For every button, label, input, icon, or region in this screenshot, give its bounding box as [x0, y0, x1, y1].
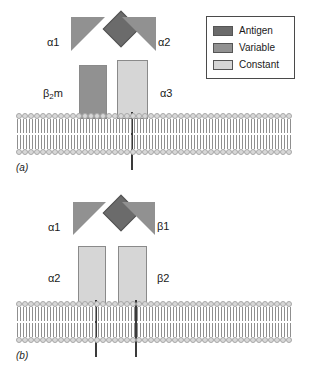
lipid-tail — [35, 307, 36, 321]
lipid-tail — [44, 119, 45, 133]
lipid-tail — [80, 323, 81, 337]
lipid-tail — [188, 307, 189, 321]
lipid-tail — [227, 307, 228, 321]
lipid-tail — [146, 307, 147, 321]
domain-alpha2-wedge-panel-a — [122, 17, 156, 51]
lipid-tail — [251, 119, 252, 133]
lipid-tail — [74, 323, 75, 337]
lipid-tail — [44, 307, 45, 321]
lipid-tail — [107, 323, 108, 337]
lipid-tail — [218, 307, 219, 321]
lipid-tail — [95, 323, 96, 337]
lipid-tail — [77, 323, 78, 337]
legend-swatch-antigen — [213, 26, 233, 36]
lipid-tail — [182, 135, 183, 149]
lipid-tail — [227, 323, 228, 337]
lipid-tail — [221, 323, 222, 337]
lipid-tail — [248, 323, 249, 337]
lipid-tail — [233, 323, 234, 337]
lipid-tail — [179, 119, 180, 133]
lipid-tail — [194, 119, 195, 133]
lipid-tail — [191, 307, 192, 321]
lipid-tail — [53, 135, 54, 149]
lipid-tail — [149, 323, 150, 337]
lipid-tail — [173, 119, 174, 133]
lipid-tail — [173, 307, 174, 321]
lipid-tail — [74, 135, 75, 149]
lipid-tail — [194, 307, 195, 321]
lipid-tail — [116, 323, 117, 337]
lipid-tail — [203, 307, 204, 321]
lipid-tail — [242, 323, 243, 337]
lipid-tail — [164, 307, 165, 321]
lipid-tail — [236, 307, 237, 321]
lipid-tail — [185, 135, 186, 149]
label-beta2m-panel-a: β2m — [43, 88, 63, 99]
lipid-tail — [122, 323, 123, 337]
lipid-tail — [203, 323, 204, 337]
lipid-tail — [122, 135, 123, 149]
lipid-tail — [104, 135, 105, 149]
lipid-tail — [86, 307, 87, 321]
lipid-tail — [224, 119, 225, 133]
lipid-tail — [65, 119, 66, 133]
lipid-tail — [53, 119, 54, 133]
lipid-tail — [242, 307, 243, 321]
lipid-tail — [50, 323, 51, 337]
lipid-tail — [107, 307, 108, 321]
lipid-tail — [152, 119, 153, 133]
lipid-tail — [20, 323, 21, 337]
lipid-tail — [83, 119, 84, 133]
lipid-tail — [224, 307, 225, 321]
lipid-tail — [182, 323, 183, 337]
label-beta1-panel-b: β1 — [157, 221, 169, 232]
lipid-tail — [245, 307, 246, 321]
lipid-tail — [170, 323, 171, 337]
label-alpha2-panel-a: α2 — [158, 37, 170, 48]
lipid-tail — [215, 307, 216, 321]
lipid-tail — [26, 323, 27, 337]
lipid-tail — [122, 307, 123, 321]
lipid-tail — [38, 307, 39, 321]
lipid-tail — [164, 135, 165, 149]
lipid-tail — [38, 323, 39, 337]
lipid-tail — [98, 323, 99, 337]
lipid-tail — [260, 307, 261, 321]
domain-alpha2-box-panel-b — [78, 246, 106, 304]
domain-alpha1-wedge-panel-a — [71, 17, 105, 51]
lipid-tail — [92, 307, 93, 321]
legend-item-constant: Constant — [213, 57, 289, 72]
lipid-tail — [197, 135, 198, 149]
label-alpha3-panel-a: α3 — [160, 88, 172, 99]
lipid-tail — [281, 135, 282, 149]
legend-item-variable: Variable — [213, 40, 289, 55]
lipid-tail — [125, 119, 126, 133]
lipid-tail — [176, 307, 177, 321]
label-alpha1-panel-a: α1 — [47, 37, 59, 48]
lipid-tail — [260, 135, 261, 149]
lipid-tail — [104, 323, 105, 337]
lipid-tail — [47, 323, 48, 337]
lipid-tail — [260, 323, 261, 337]
lipid-tail — [179, 307, 180, 321]
lipid-tail — [89, 323, 90, 337]
lipid-tail — [98, 119, 99, 133]
lipid-tail — [86, 323, 87, 337]
lipid-tail — [92, 119, 93, 133]
lipid-tail — [269, 135, 270, 149]
lipid-tail — [242, 119, 243, 133]
lipid-tail — [239, 135, 240, 149]
lipid-tail — [92, 323, 93, 337]
lipid-tail — [71, 119, 72, 133]
lipid-tail — [110, 307, 111, 321]
lipid-tail — [170, 135, 171, 149]
lipid-tail — [50, 135, 51, 149]
lipid-tail — [245, 323, 246, 337]
lipid-tail — [137, 323, 138, 337]
lipid-tail — [50, 119, 51, 133]
phospholipid — [286, 322, 292, 343]
lipid-tail — [290, 323, 291, 337]
lipid-tail — [206, 119, 207, 133]
lipid-tail — [131, 307, 132, 321]
lipid-tail — [218, 323, 219, 337]
